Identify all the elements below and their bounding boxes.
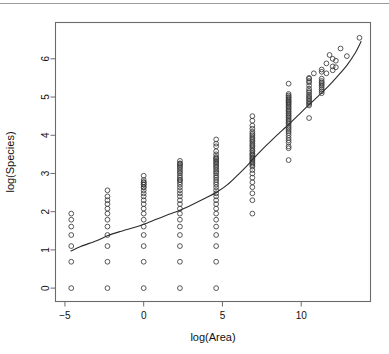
y-tick-label: 6 xyxy=(40,56,51,62)
data-point xyxy=(357,35,362,40)
data-point xyxy=(214,259,219,264)
data-point xyxy=(250,114,255,119)
data-point xyxy=(324,61,329,66)
x-tick-label: 10 xyxy=(296,310,308,321)
data-point xyxy=(214,224,219,229)
data-point xyxy=(105,217,110,222)
data-point xyxy=(286,158,291,163)
data-point xyxy=(141,286,146,291)
data-point xyxy=(105,259,110,264)
data-point xyxy=(178,244,183,249)
data-point xyxy=(214,244,219,249)
data-point xyxy=(327,53,332,58)
x-tick-label: −5 xyxy=(59,310,71,321)
data-point xyxy=(141,206,146,211)
data-point xyxy=(178,211,183,216)
data-point xyxy=(250,198,255,203)
data-point xyxy=(141,259,146,264)
data-point xyxy=(178,286,183,291)
data-point xyxy=(214,286,219,291)
data-point xyxy=(105,188,110,193)
scatter-plot: −50510 0123456 log(Area) log(Species) xyxy=(0,0,389,354)
data-point xyxy=(69,224,74,229)
data-point xyxy=(214,211,219,216)
x-axis-ticks: −50510 xyxy=(59,302,307,321)
data-point xyxy=(105,224,110,229)
y-tick-label: 4 xyxy=(40,132,51,138)
data-point xyxy=(141,244,146,249)
data-point xyxy=(250,180,255,185)
data-point xyxy=(214,217,219,222)
data-point xyxy=(214,206,219,211)
data-point xyxy=(307,116,312,121)
y-axis-title: log(Species) xyxy=(4,131,16,192)
data-point xyxy=(141,211,146,216)
data-point xyxy=(250,191,255,196)
data-point xyxy=(338,46,343,51)
data-point xyxy=(141,217,146,222)
data-point xyxy=(178,224,183,229)
data-point xyxy=(178,233,183,238)
y-tick-label: 1 xyxy=(40,247,51,253)
y-axis-ticks: 0123456 xyxy=(40,56,56,291)
data-point xyxy=(324,71,329,76)
data-point xyxy=(105,244,110,249)
data-point xyxy=(69,244,74,249)
y-tick-label: 2 xyxy=(40,208,51,214)
figure-container: −50510 0123456 log(Area) log(Species) xyxy=(0,0,389,354)
y-tick-label: 5 xyxy=(40,94,51,100)
data-point xyxy=(250,185,255,190)
y-tick-label: 3 xyxy=(40,170,51,176)
data-point xyxy=(250,118,255,123)
x-tick-label: 0 xyxy=(141,310,147,321)
data-point xyxy=(178,217,183,222)
data-point xyxy=(105,211,110,216)
plot-points-layer xyxy=(69,35,362,290)
data-point xyxy=(69,217,74,222)
data-point xyxy=(286,81,291,86)
data-point xyxy=(105,206,110,211)
data-point xyxy=(178,259,183,264)
data-point xyxy=(69,286,74,291)
plot-frame xyxy=(56,23,371,302)
x-tick-label: 5 xyxy=(220,310,226,321)
data-point xyxy=(141,233,146,238)
data-point xyxy=(250,211,255,216)
data-point xyxy=(69,259,74,264)
data-point xyxy=(69,211,74,216)
data-point xyxy=(214,233,219,238)
data-point xyxy=(344,54,349,59)
x-axis-title: log(Area) xyxy=(190,331,235,343)
y-tick-label: 0 xyxy=(40,285,51,291)
data-point xyxy=(311,71,316,76)
data-point xyxy=(69,233,74,238)
data-point xyxy=(105,286,110,291)
data-point xyxy=(333,65,338,70)
